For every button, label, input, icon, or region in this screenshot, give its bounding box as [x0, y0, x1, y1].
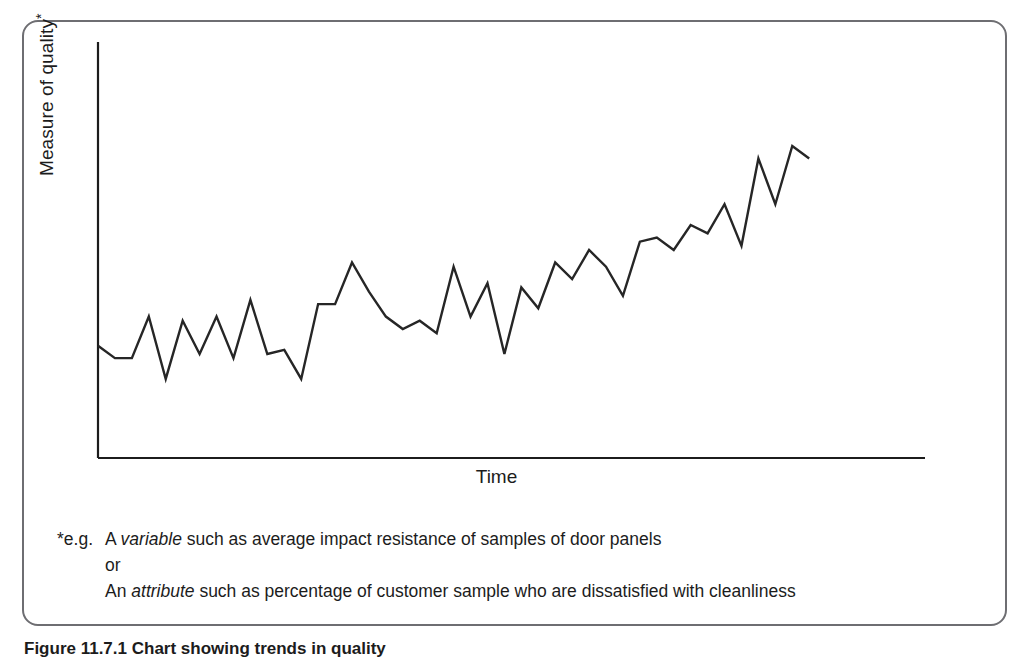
footnote-line-3-text: An attribute such as percentage of custo…	[105, 578, 796, 604]
footnote-block: *e.g.A variable such as average impact r…	[57, 526, 957, 604]
footnote-line-1: *e.g.A variable such as average impact r…	[57, 526, 957, 552]
footnote-line-1-post: such as average impact resistance of sam…	[182, 529, 662, 549]
y-axis-title-text: Measure of quality	[36, 19, 57, 176]
footnote-marker: *e.g.	[57, 526, 105, 552]
footnote-line-2-text: or	[105, 552, 121, 578]
y-axis-title-superscript: *	[33, 13, 49, 19]
x-axis-title: Time	[0, 466, 1029, 488]
footnote-line-3-emphasis: attribute	[131, 581, 194, 601]
x-axis-title-text: Time	[476, 466, 518, 487]
footnote-line-3-post: such as percentage of customer sample wh…	[195, 581, 796, 601]
footnote-line-1-pre: A	[105, 529, 121, 549]
footnote-line-3-pre: An	[105, 581, 131, 601]
y-axis-title: Measure of quality*	[36, 0, 62, 176]
footnote-line-3: An attribute such as percentage of custo…	[57, 578, 957, 604]
footnote-line-1-emphasis: variable	[121, 529, 182, 549]
figure-caption: Figure 11.7.1 Chart showing trends in qu…	[24, 639, 386, 659]
footnote-line-1-text: A variable such as average impact resist…	[105, 526, 661, 552]
footnote-line-2: or	[57, 552, 957, 578]
